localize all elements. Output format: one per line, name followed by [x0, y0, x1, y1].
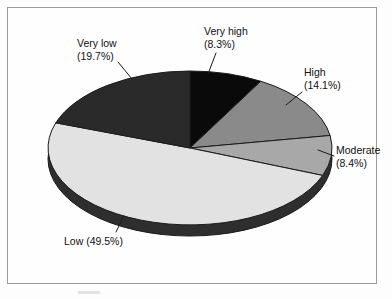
- slice-label-very-high-line2: (8.3%): [204, 38, 235, 50]
- pie-slice-group: [48, 71, 332, 225]
- leader-line-very-high: [208, 53, 216, 74]
- slice-label-moderate-line1: Moderate: [336, 144, 380, 156]
- slice-label-very-low-line2: (19.7%): [77, 50, 114, 62]
- slice-label-low-line1: Low (49.5%): [64, 235, 123, 247]
- leader-line-very-low: [118, 62, 132, 79]
- slice-label-very-high: Very high(8.3%): [204, 25, 248, 50]
- slice-label-high: High(14.1%): [304, 66, 341, 91]
- slice-label-very-low-line1: Very low: [77, 37, 117, 49]
- pie-chart-canvas: [0, 0, 392, 299]
- slice-label-high-line2: (14.1%): [304, 79, 341, 91]
- slice-label-very-low: Very low(19.7%): [77, 37, 117, 62]
- pie-chart-figure: Very high(8.3%) High(14.1%) Moderate(8.4…: [0, 0, 392, 299]
- slice-label-moderate-line2: (8.4%): [336, 157, 367, 169]
- slice-label-low: Low (49.5%): [64, 235, 123, 248]
- slice-label-moderate: Moderate(8.4%): [336, 144, 380, 169]
- slice-label-high-line1: High: [304, 66, 326, 78]
- slice-label-very-high-line1: Very high: [204, 25, 248, 37]
